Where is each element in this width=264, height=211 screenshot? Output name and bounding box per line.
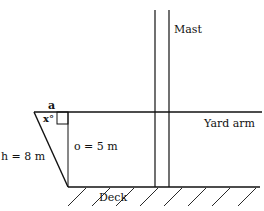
yard-arm-label: Yard arm (204, 118, 255, 129)
right-angle-marker (57, 112, 68, 124)
alpha-label: a (48, 100, 55, 111)
diagram-lines (0, 0, 264, 211)
hypotenuse-label: h = 8 m (1, 151, 45, 162)
angle-x-label: x° (43, 114, 54, 124)
diagram-canvas: Mast Yard arm Deck a x° o = 5 m h = 8 m (0, 0, 264, 211)
deck-hatching (68, 188, 256, 206)
mast-label: Mast (174, 24, 202, 35)
opposite-label: o = 5 m (74, 141, 118, 152)
deck-label: Deck (99, 192, 127, 203)
